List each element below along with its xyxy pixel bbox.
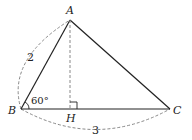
length-ab: 2 xyxy=(27,51,34,64)
angle-b-arc xyxy=(25,102,29,109)
label-b: B xyxy=(7,104,16,117)
label-a: A xyxy=(65,4,74,17)
label-h: H xyxy=(65,112,76,125)
angle-b-value: 60° xyxy=(31,95,49,106)
label-c: C xyxy=(173,104,182,117)
side-ac xyxy=(70,20,170,109)
triangle-diagram: A B C H 2 3 60° xyxy=(0,0,192,140)
length-bc: 3 xyxy=(92,124,99,137)
right-angle-mark xyxy=(70,102,77,109)
